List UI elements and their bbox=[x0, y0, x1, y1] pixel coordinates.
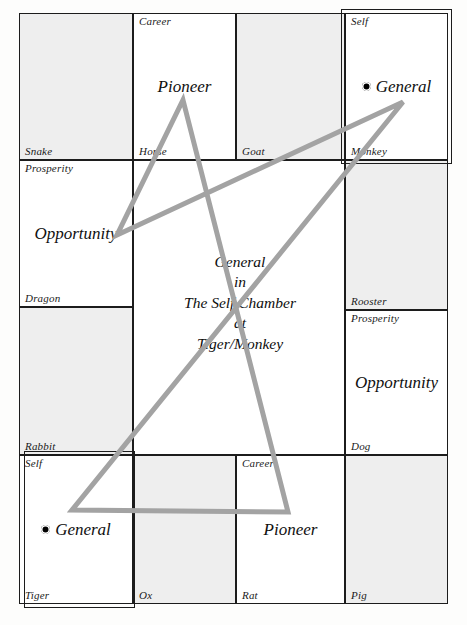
aspiration-label: Career bbox=[242, 457, 274, 469]
star-name: General bbox=[346, 77, 447, 97]
star-name-text: Opportunity bbox=[34, 224, 117, 243]
aspiration-label: Prosperity bbox=[25, 162, 73, 174]
feng-shui-chart: SnakeCareerPioneerHorseGoatSelfGeneralMo… bbox=[0, 0, 467, 625]
chart-cell-rat[interactable]: CareerPioneerRat bbox=[236, 455, 345, 604]
center-summary-line-1: General bbox=[150, 252, 330, 272]
chart-cell-goat[interactable]: Goat bbox=[236, 13, 345, 160]
branch-label: Rat bbox=[242, 589, 258, 601]
branch-label: Ox bbox=[139, 589, 152, 601]
branch-label: Horse bbox=[139, 145, 167, 157]
chart-cell-pig[interactable]: Pig bbox=[345, 455, 448, 604]
center-summary-line-5: Tiger/Monkey bbox=[150, 334, 330, 354]
chart-cell-dog[interactable]: ProsperityOpportunityDog bbox=[345, 310, 448, 455]
branch-label: Goat bbox=[242, 145, 265, 157]
star-name-text: Pioneer bbox=[264, 520, 318, 539]
branch-label: Snake bbox=[25, 145, 52, 157]
aspiration-label: Self bbox=[25, 457, 42, 469]
star-name: Pioneer bbox=[237, 520, 344, 540]
branch-label: Rooster bbox=[351, 295, 387, 307]
chart-cell-rooster[interactable]: Rooster bbox=[345, 160, 448, 310]
branch-label: Dog bbox=[351, 440, 371, 452]
center-summary-line-4: at bbox=[150, 313, 330, 333]
star-name: Pioneer bbox=[134, 77, 235, 97]
aspiration-label: Career bbox=[139, 15, 171, 27]
chart-cell-ox[interactable]: Ox bbox=[133, 455, 236, 604]
chart-cell-monkey[interactable]: SelfGeneralMonkey bbox=[345, 13, 448, 160]
center-summary-line-2: in bbox=[150, 272, 330, 292]
branch-label: Pig bbox=[351, 589, 367, 601]
aspiration-label: Self bbox=[351, 15, 368, 27]
marker-dot-icon bbox=[41, 525, 50, 534]
aspiration-label: Prosperity bbox=[351, 312, 399, 324]
star-name-text: Opportunity bbox=[355, 373, 438, 392]
star-name: Opportunity bbox=[20, 224, 132, 244]
branch-label: Rabbit bbox=[25, 440, 56, 452]
star-name: General bbox=[20, 520, 132, 540]
chart-cell-dragon[interactable]: ProsperityOpportunityDragon bbox=[19, 160, 133, 307]
marker-dot-icon bbox=[362, 82, 371, 91]
branch-label: Dragon bbox=[25, 292, 60, 304]
star-name-text: General bbox=[376, 77, 432, 96]
branch-label: Tiger bbox=[25, 589, 49, 601]
star-name-text: General bbox=[55, 520, 111, 539]
chart-cell-snake[interactable]: Snake bbox=[19, 13, 133, 160]
chart-cell-horse[interactable]: CareerPioneerHorse bbox=[133, 13, 236, 160]
center-summary-line-3: The Self Chamber bbox=[150, 293, 330, 313]
chart-cell-rabbit[interactable]: Rabbit bbox=[19, 307, 133, 455]
star-name: Opportunity bbox=[346, 373, 447, 393]
chart-cell-tiger[interactable]: SelfGeneralTiger bbox=[19, 455, 133, 604]
center-summary: General in The Self Chamber at Tiger/Mon… bbox=[150, 252, 330, 354]
branch-label: Monkey bbox=[351, 145, 387, 157]
star-name-text: Pioneer bbox=[158, 77, 212, 96]
